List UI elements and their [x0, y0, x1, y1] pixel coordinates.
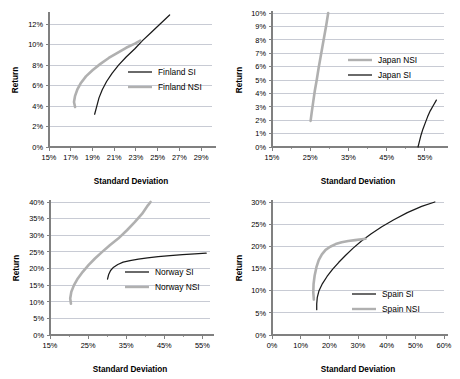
x-axis-title: Standard Deviation — [94, 177, 169, 186]
y-axis-tick-label: 35% — [29, 214, 44, 223]
y-axis-tick-label: 10% — [29, 298, 44, 307]
y-axis-tick-label: 3% — [255, 103, 266, 112]
y-axis-tick-label: 10% — [251, 286, 266, 295]
y-axis-tick-label: 6% — [255, 62, 266, 71]
x-axis-tick-label: 29% — [194, 153, 209, 162]
x-axis-title: Standard Deviation — [93, 365, 168, 374]
x-axis-tick-label: 60% — [437, 341, 452, 350]
x-axis-tick-label: 15% — [43, 341, 58, 350]
legend-label-finland-nsi: Finland NSI — [158, 82, 202, 92]
y-axis-tick-label: 25% — [29, 248, 44, 257]
y-axis-tick-label: 0% — [32, 143, 43, 152]
y-axis-tick-label: 4% — [32, 102, 43, 111]
y-axis-tick-label: 40% — [29, 198, 44, 207]
x-axis-tick-label: 40% — [379, 341, 394, 350]
x-axis-tick-label: 23% — [129, 153, 144, 162]
y-axis-tick-label: 0% — [255, 143, 266, 152]
y-axis-tick-label: 15% — [251, 264, 266, 273]
y-axis-tick-label: 5% — [255, 76, 266, 85]
legend-label-finland-si: Finland SI — [158, 67, 196, 77]
legend-label-norway-nsi: Norway NSI — [155, 282, 200, 292]
y-axis-tick-label: 20% — [29, 264, 44, 273]
x-axis-title: Standard Deviation — [321, 177, 396, 186]
x-axis-tick-label: 30% — [351, 341, 366, 350]
legend-label-japan-nsi: Japan NSI — [378, 55, 417, 65]
x-axis-tick-label: 15% — [265, 153, 280, 162]
y-axis-tick-label: 0% — [255, 331, 266, 340]
y-axis-tick-label: 15% — [29, 281, 44, 290]
x-axis-tick-label: 21% — [107, 153, 122, 162]
legend-label-spain-nsi: Spain NSI — [382, 304, 420, 314]
y-axis-title: Return — [235, 255, 244, 281]
y-axis-tick-label: 9% — [255, 22, 266, 31]
x-axis-tick-label: 19% — [85, 153, 100, 162]
x-axis-title: Standard Deviation — [321, 365, 396, 374]
x-axis-tick-label: 15% — [42, 153, 57, 162]
x-axis-tick-label: 25% — [81, 341, 96, 350]
y-axis-tick-label: 1% — [255, 129, 266, 138]
y-axis-tick-label: 10% — [251, 9, 266, 18]
x-axis-tick-label: 35% — [341, 153, 356, 162]
x-axis-tick-label: 55% — [195, 341, 210, 350]
y-axis-tick-label: 12% — [28, 20, 43, 29]
chart-grid: 0%2%4%6%8%10%12%15%17%19%21%23%25%27%29%… — [0, 0, 460, 379]
x-axis-tick-label: 25% — [150, 153, 165, 162]
x-axis-tick-label: 20% — [322, 341, 337, 350]
x-axis-tick-label: 17% — [63, 153, 78, 162]
legend-label-spain-si: Spain SI — [382, 289, 414, 299]
x-axis-tick-label: 50% — [408, 341, 423, 350]
y-axis-tick-label: 4% — [255, 89, 266, 98]
y-axis-title: Return — [12, 255, 21, 281]
y-axis-tick-label: 2% — [32, 122, 43, 131]
y-axis-tick-label: 20% — [251, 242, 266, 251]
x-axis-tick-label: 10% — [293, 341, 308, 350]
y-axis-tick-label: 25% — [251, 220, 266, 229]
series-line-finland-si — [95, 15, 170, 114]
y-axis-tick-label: 8% — [32, 61, 43, 70]
y-axis-tick-label: 30% — [251, 198, 266, 207]
y-axis-tick-label: 7% — [255, 49, 266, 58]
x-axis-tick-label: 27% — [172, 153, 187, 162]
x-axis-tick-label: 45% — [379, 153, 394, 162]
y-axis-tick-label: 8% — [255, 36, 266, 45]
y-axis-tick-label: 30% — [29, 231, 44, 240]
chart-panel-japan: 0%1%2%3%4%5%6%7%8%9%10%15%25%35%45%55%Re… — [230, 0, 460, 190]
legend-label-norway-si: Norway SI — [155, 267, 194, 277]
x-axis-tick-label: 35% — [119, 341, 134, 350]
y-axis-tick-label: 5% — [255, 309, 266, 318]
x-axis-tick-label: 45% — [157, 341, 172, 350]
y-axis-tick-label: 0% — [33, 331, 44, 340]
y-axis-tick-label: 10% — [28, 40, 43, 49]
x-axis-tick-label: 55% — [417, 153, 432, 162]
y-axis-tick-label: 5% — [33, 314, 44, 323]
series-line-japan-nsi — [311, 13, 329, 121]
series-line-japan-si — [418, 100, 436, 147]
chart-panel-finland: 0%2%4%6%8%10%12%15%17%19%21%23%25%27%29%… — [0, 0, 230, 190]
series-line-norway-nsi — [70, 202, 150, 304]
x-axis-tick-label: 0% — [267, 341, 278, 350]
series-line-finland-nsi — [74, 41, 140, 108]
y-axis-tick-label: 2% — [255, 116, 266, 125]
y-axis-tick-label: 6% — [32, 81, 43, 90]
chart-panel-spain: 0%5%10%15%20%25%30%0%10%20%30%40%50%60%R… — [230, 190, 460, 379]
chart-panel-norway: 0%5%10%15%20%25%30%35%40%15%25%35%45%55%… — [0, 190, 230, 379]
y-axis-title: Return — [11, 67, 20, 93]
y-axis-title: Return — [235, 67, 244, 93]
x-axis-tick-label: 25% — [303, 153, 318, 162]
legend-label-japan-si: Japan SI — [378, 70, 411, 80]
